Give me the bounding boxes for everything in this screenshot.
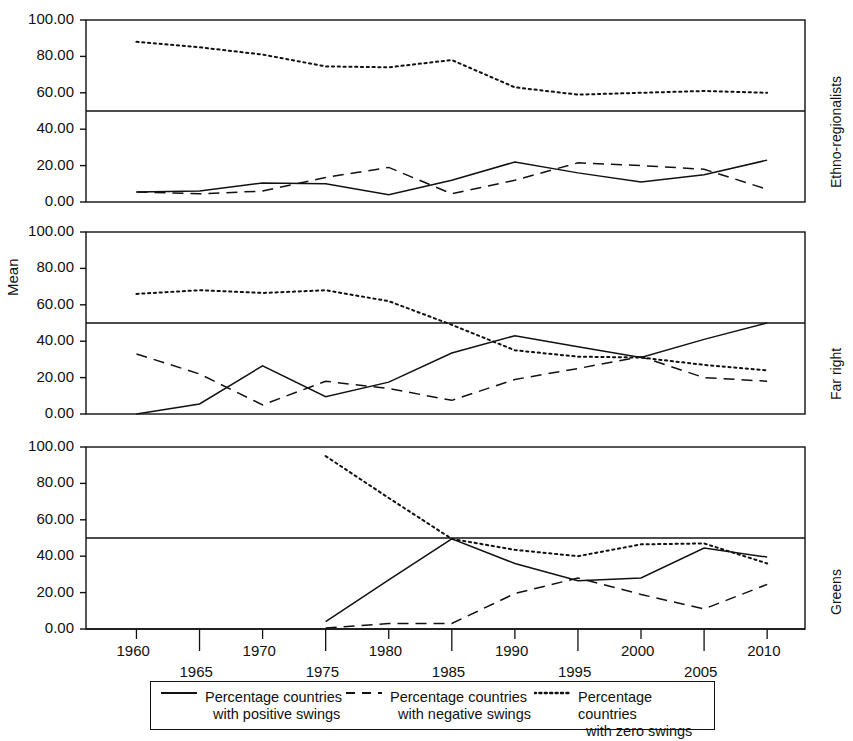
y-tick-label: 60.00 [0, 83, 74, 100]
legend-label-line1: Percentage countries [578, 689, 714, 723]
x-tick-label: 1995 [558, 663, 591, 680]
y-tick-label: 100.00 [0, 222, 74, 239]
legend-swatch-dashed [346, 691, 382, 695]
legend-item: Percentage countrieswith negative swings [390, 689, 531, 723]
y-tick-label: 40.00 [0, 331, 74, 348]
x-tick-label: 2005 [684, 663, 717, 680]
x-tick-label: 2000 [621, 642, 654, 659]
series-dotted [326, 456, 767, 563]
y-axis-title: Mean [4, 258, 21, 296]
y-tick-label: 20.00 [0, 156, 74, 173]
y-tick-label: 80.00 [0, 46, 74, 63]
x-tick-label: 1985 [432, 663, 465, 680]
panel-label: Far right [828, 348, 844, 400]
y-tick-label: 20.00 [0, 583, 74, 600]
panel-label: Greens [828, 569, 844, 615]
series-solid [326, 539, 767, 622]
legend-label-line1: Percentage countries [205, 689, 342, 706]
panel-far-right [80, 232, 805, 414]
legend: Percentage countrieswith positive swings… [150, 681, 715, 730]
x-tick-label: 2010 [747, 642, 780, 659]
x-tick-label: 1975 [306, 663, 339, 680]
panel-ethno-regionalists [80, 20, 805, 202]
y-tick-label: 0.00 [0, 619, 74, 636]
x-tick-label: 1980 [369, 642, 402, 659]
panel-label: Ethno-regionalists [828, 76, 844, 188]
legend-swatch-dotted [534, 691, 570, 695]
y-tick-label: 20.00 [0, 368, 74, 385]
y-tick-label: 60.00 [0, 510, 74, 527]
y-tick-label: 0.00 [0, 192, 74, 209]
legend-label-line2: with zero swings [586, 723, 714, 740]
series-solid [136, 160, 767, 195]
y-tick-label: 80.00 [0, 473, 74, 490]
legend-swatch-solid [161, 691, 197, 695]
series-dashed [326, 578, 767, 628]
x-tick-label: 1960 [116, 642, 149, 659]
y-tick-label: 100.00 [0, 10, 74, 27]
panels-layer [80, 20, 805, 629]
legend-label-line2: with negative swings [398, 706, 531, 723]
panel-greens [80, 447, 805, 629]
x-tick-label: 1970 [243, 642, 276, 659]
y-tick-label: 0.00 [0, 404, 74, 421]
series-dotted [136, 290, 767, 370]
x-tick-label: 1990 [495, 642, 528, 659]
y-tick-label: 60.00 [0, 295, 74, 312]
y-tick-label: 100.00 [0, 437, 74, 454]
legend-label-line1: Percentage countries [390, 689, 531, 706]
legend-item: Percentage countrieswith zero swings [578, 689, 714, 740]
legend-label-line2: with positive swings [213, 706, 342, 723]
y-tick-label: 40.00 [0, 546, 74, 563]
legend-item: Percentage countrieswith positive swings [205, 689, 342, 723]
chart-figure [0, 0, 853, 741]
series-dotted [136, 42, 767, 95]
y-tick-label: 40.00 [0, 119, 74, 136]
x-axis [86, 629, 805, 651]
x-tick-label: 1965 [180, 663, 213, 680]
